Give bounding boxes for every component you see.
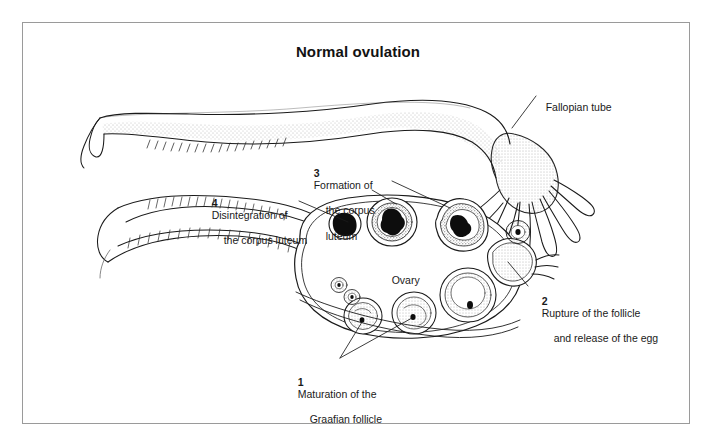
label-step-3: 3 Formation of the corpus luteum xyxy=(302,154,375,255)
label-ovary: Ovary xyxy=(380,261,420,299)
label-step-4-line2: the corpus luteum xyxy=(212,234,307,247)
label-step-3-line3: luteum xyxy=(314,230,358,243)
fallopian-tube-shape xyxy=(81,100,510,178)
label-step-1-number: 1 xyxy=(298,376,304,388)
corpus-luteum-forming xyxy=(436,199,489,251)
graafian-follicle xyxy=(440,268,496,322)
label-step-4-number: 4 xyxy=(212,197,218,209)
label-fallopian-tube: Fallopian tube xyxy=(534,88,612,126)
label-step-2-number: 2 xyxy=(542,295,548,307)
label-ovary-text: Ovary xyxy=(392,274,420,286)
released-egg xyxy=(506,221,530,244)
label-fallopian-tube-text: Fallopian tube xyxy=(546,101,612,113)
label-step-2-line1: Rupture of the follicle xyxy=(542,307,641,319)
label-step-3-line2: the corpus xyxy=(314,204,375,217)
figure-page: Normal ovulation xyxy=(0,0,716,446)
label-step-1: 1 Maturation of the Graafian follicle xyxy=(286,363,382,439)
label-step-4-line1: Disintegration of xyxy=(212,209,288,221)
label-step-4: 4 Disintegration of the corpus luteum xyxy=(200,184,307,260)
ruptured-follicle xyxy=(488,238,560,286)
label-step-1-line2: Graafian follicle xyxy=(298,413,382,426)
label-step-3-line1: Formation of xyxy=(314,179,373,191)
label-step-2-line2: and release of the egg xyxy=(542,332,659,345)
label-step-2: 2 Rupture of the follicle and release of… xyxy=(530,282,658,358)
label-step-1-line1: Maturation of the xyxy=(298,388,377,400)
label-step-3-number: 3 xyxy=(314,167,320,179)
